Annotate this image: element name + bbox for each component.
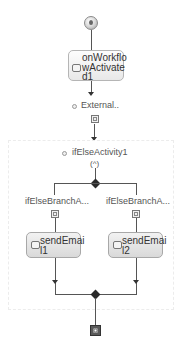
activity-label-line-2: l2: [122, 245, 130, 256]
activity-sendEmail1[interactable]: sendEmai l1: [26, 232, 81, 258]
branch-label[interactable]: ifElseBranchA...: [25, 196, 89, 206]
condition-icon: (^): [90, 159, 99, 168]
connector-line: [54, 183, 137, 184]
activity-onWorkflowActivated1[interactable]: onWorkflo wActivate d1: [68, 50, 124, 81]
workflow-end-icon[interactable]: [90, 325, 101, 336]
connector-line: [136, 258, 137, 294]
branch-label[interactable]: ifElseBranchA...: [106, 196, 170, 206]
activity-sendEmail2[interactable]: sendEmai l2: [108, 232, 163, 258]
connector-line: [136, 218, 137, 232]
arrow-down-icon: [88, 92, 94, 96]
workflow-start-icon[interactable]: [84, 16, 98, 30]
connector-line: [94, 124, 95, 138]
email-icon: [31, 241, 40, 249]
branch-icon: [132, 210, 140, 218]
email-icon: [113, 241, 122, 249]
connector-line: [136, 183, 137, 195]
connector-line: [95, 298, 96, 325]
external-icon: [91, 115, 99, 123]
arrow-down-icon: [133, 280, 139, 284]
expand-icon[interactable]: [62, 151, 67, 156]
ifelse-activity-label[interactable]: ifElseActivity1: [72, 147, 128, 157]
connector-line: [54, 183, 55, 195]
external-activity-label[interactable]: External..: [81, 100, 119, 110]
connector-line: [55, 258, 56, 294]
arrow-down-icon: [52, 280, 58, 284]
event-icon: [72, 64, 81, 72]
connector-line: [91, 30, 92, 50]
branch-icon: [51, 210, 59, 218]
expand-icon[interactable]: [72, 104, 77, 109]
activity-label-line-2: l1: [40, 245, 48, 256]
connector-line: [55, 218, 56, 232]
